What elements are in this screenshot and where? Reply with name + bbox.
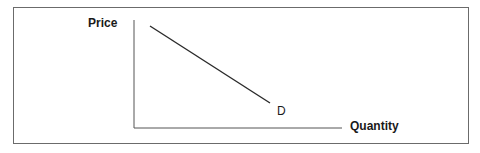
demand-curve-label: D <box>277 104 286 118</box>
demand-curve <box>150 26 270 103</box>
x-axis-label: Quantity <box>350 119 399 133</box>
y-axis-label: Price <box>88 16 117 30</box>
demand-chart <box>0 0 480 153</box>
